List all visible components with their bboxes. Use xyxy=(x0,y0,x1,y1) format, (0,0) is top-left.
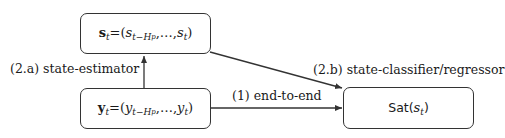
equals: = xyxy=(110,25,121,40)
node-sat: Sat(st) xyxy=(343,87,474,129)
node-observation: yt=(yt−Hp,…,yt) xyxy=(80,88,211,129)
label-state-estimator: (2.a) state-estimator xyxy=(10,61,139,76)
paren-close: ) xyxy=(187,25,192,40)
label-end-to-end: (1) end-to-end xyxy=(232,88,322,103)
separator: ,…, xyxy=(156,100,177,115)
sat-func: Sat xyxy=(388,100,409,115)
item2: s xyxy=(177,25,184,40)
node-state: st=(st−Hp,…,st) xyxy=(80,13,211,54)
label-state-classifier: (2.b) state-classifier/regressor xyxy=(313,62,504,77)
paren-close: ) xyxy=(188,100,193,115)
equals: = xyxy=(109,100,120,115)
state-symbol: s xyxy=(99,25,106,40)
item1-sub: t−H xyxy=(132,107,151,117)
separator: ,…, xyxy=(156,25,177,40)
state-formula: st=(st−Hp,…,st) xyxy=(99,25,193,42)
obs-formula: yt=(yt−Hp,…,yt) xyxy=(98,100,193,117)
sat-formula: Sat(st) xyxy=(388,100,429,117)
paren-close: ) xyxy=(424,100,429,115)
item1-sub: t−H xyxy=(132,32,151,42)
